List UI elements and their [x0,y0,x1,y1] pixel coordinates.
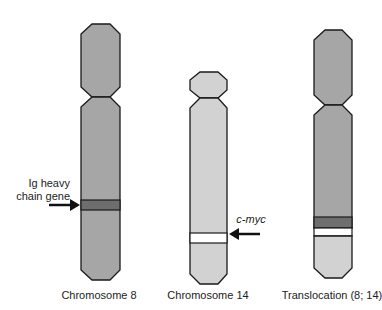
chromosome-14-label: Chromosome 14 [167,289,248,301]
trans-long-arm-upper [314,105,352,228]
chromosome-8-label: Chromosome 8 [61,289,136,301]
chromosome-14 [190,72,227,284]
trans-dark-band [314,217,352,228]
ig-heavy-label-line2: chain gene [16,190,70,202]
chr8-long-arm [81,97,120,280]
chr14-long-arm [190,98,227,284]
trans-long-arm-lower [314,236,352,278]
ig-heavy-chain-band [81,200,120,210]
translocation-chromosome [314,30,352,278]
c-myc-band [190,233,227,243]
translocation-label: Translocation (8; 14) [282,289,382,301]
ig-heavy-label-line1: Ig heavy [28,177,70,189]
chromosome-8 [81,24,120,280]
trans-short-arm [314,30,352,105]
arrow-left-icon [229,228,260,240]
translocation-diagram: Ig heavy chain gene c-myc Chromosome 8 C… [0,0,382,310]
c-myc-label: c-myc [236,213,266,225]
trans-white-band [314,228,352,236]
chr14-short-arm [190,72,227,98]
chr8-short-arm [81,24,120,97]
